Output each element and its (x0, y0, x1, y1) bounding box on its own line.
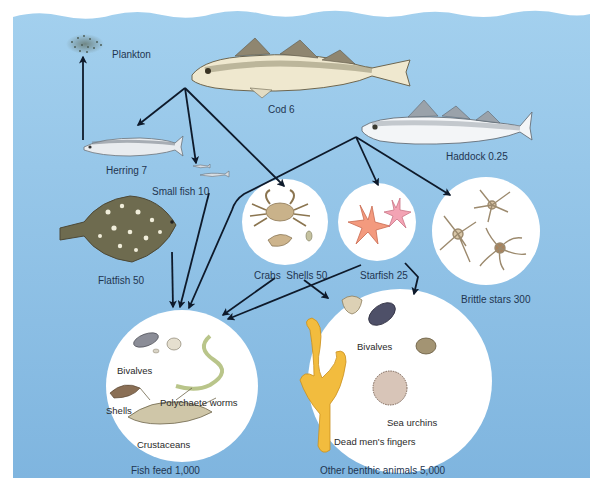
label-fish-feed: Fish feed 1,000 (131, 466, 200, 476)
label-starfish: Starfish 25 (360, 271, 408, 281)
label-other-benthic: Other benthic animals 5,000 (320, 466, 445, 476)
label-herring: Herring 7 (106, 166, 147, 176)
label-fish-feed-crustaceans: Crustaceans (137, 440, 190, 450)
label-small-fish: Small fish 10 (152, 187, 209, 197)
label-brittle-stars: Brittle stars 300 (461, 295, 530, 305)
crabs-shells-circle (242, 179, 328, 265)
label-fish-feed-bivalves: Bivalves (117, 366, 152, 376)
arrow-flatfish-to-fish-feed (172, 252, 173, 307)
label-fish-feed-shells: Shells (106, 406, 132, 416)
label-crabs-shells: Crabs Shells 50 (254, 271, 327, 281)
plankton-icon (66, 34, 104, 54)
label-cod: Cod 6 (268, 105, 295, 115)
diagram-canvas (0, 0, 605, 492)
label-fish-feed-polychaete: Polychaete worms (160, 398, 238, 408)
label-flatfish: Flatfish 50 (98, 276, 144, 286)
label-benthic-sea-urchins: Sea urchins (387, 418, 437, 428)
label-benthic-dead-mens-fingers: Dead men's fingers (334, 437, 416, 447)
label-benthic-bivalves: Bivalves (357, 342, 392, 352)
label-plankton: Plankton (112, 50, 151, 60)
food-web-diagram: Plankton Cod 6 Herring 7 Haddock 0.25 Sm… (0, 0, 605, 492)
label-haddock: Haddock 0.25 (446, 152, 508, 162)
